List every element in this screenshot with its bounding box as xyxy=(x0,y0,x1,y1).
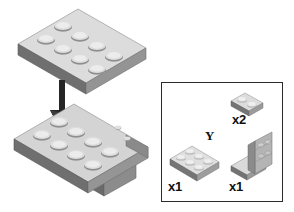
parts-group-label: Y xyxy=(205,129,214,142)
part-quantity-plate-2x4: x1 xyxy=(168,180,182,193)
part-quantity-bracket: x1 xyxy=(229,180,243,193)
part-bracket-assembly xyxy=(14,104,148,196)
part-plate-2x4-top xyxy=(18,9,146,94)
part-quantity-plate-1x2: x2 xyxy=(232,113,246,126)
diagram-canvas: x2 Y x1 x1 xyxy=(0,0,294,212)
